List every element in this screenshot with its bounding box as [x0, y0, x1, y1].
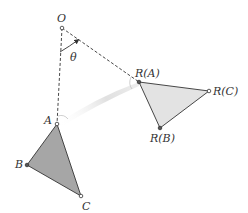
label-b: B: [14, 158, 23, 171]
point-ra: [137, 80, 141, 84]
radius-o-to-a: [57, 28, 62, 124]
point-o: [60, 26, 64, 30]
point-b: [25, 163, 29, 167]
label-a: A: [43, 114, 52, 127]
point-a: [55, 122, 59, 126]
label-rb: R(B): [149, 132, 175, 145]
label-o: O: [57, 12, 66, 25]
label-rc: R(C): [212, 85, 238, 98]
point-c: [79, 194, 83, 198]
label-c: C: [82, 200, 91, 213]
point-rb: [158, 126, 162, 130]
point-rc: [207, 89, 211, 93]
label-theta: θ: [70, 51, 77, 64]
triangle-rotated: [139, 82, 209, 128]
triangle-abc: [27, 124, 81, 196]
label-ra: R(A): [134, 67, 160, 80]
rotation-trace: [57, 82, 139, 128]
rotation-diagram: O θ A B C R(A) R(B) R(C): [0, 0, 248, 213]
